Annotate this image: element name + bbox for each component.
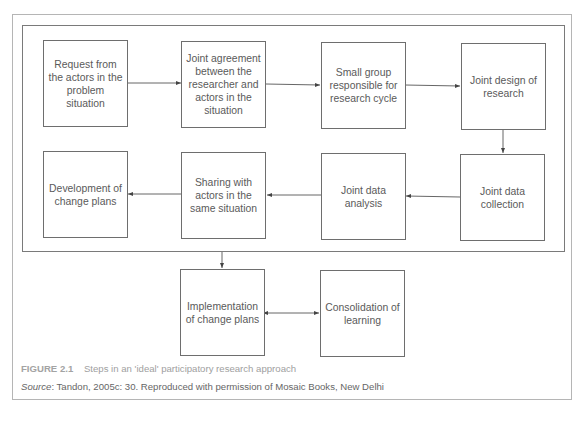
step-analysis: Joint data analysis [321, 153, 406, 240]
step-consolidation: Consolidation of learning [320, 270, 405, 357]
step-small-group: Small group responsible for research cyc… [321, 42, 406, 129]
step-label: Request from the actors in the problem s… [46, 58, 125, 110]
figure-title: Steps in an 'ideal' participatory resear… [84, 363, 296, 374]
step-label: Development of change plans [46, 182, 125, 208]
step-agreement: Joint agreement between the researcher a… [181, 41, 266, 128]
step-design: Joint design of research [461, 43, 546, 130]
step-label: Joint data collection [463, 185, 542, 211]
step-development: Development of change plans [43, 151, 128, 238]
step-sharing: Sharing with actors in the same situatio… [181, 152, 266, 239]
step-label: Small group responsible for research cyc… [324, 66, 403, 105]
step-label: Sharing with actors in the same situatio… [184, 176, 263, 215]
step-request: Request from the actors in the problem s… [43, 40, 128, 127]
figure-number: FIGURE 2.1 [21, 363, 73, 374]
step-label: Joint agreement between the researcher a… [184, 52, 263, 117]
source-label: Source [21, 381, 51, 392]
source-text: : Tandon, 2005c: 30. Reproduced with per… [51, 381, 384, 392]
step-label: Consolidation of learning [323, 301, 402, 327]
figure-source: Source: Tandon, 2005c: 30. Reproduced wi… [21, 381, 384, 392]
step-label: Joint design of research [464, 74, 543, 100]
figure-caption: FIGURE 2.1 Steps in an 'ideal' participa… [21, 363, 296, 374]
step-collection: Joint data collection [460, 154, 545, 241]
step-implementation: Implementation of change plans [180, 269, 265, 356]
step-label: Implementation of change plans [183, 300, 262, 326]
step-label: Joint data analysis [324, 184, 403, 210]
